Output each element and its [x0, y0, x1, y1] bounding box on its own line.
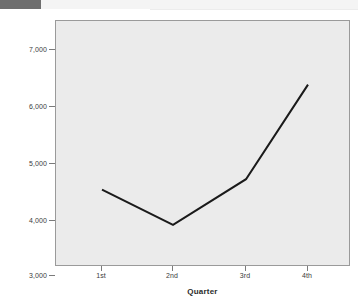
series-line-sales-in-units	[56, 21, 351, 267]
data-polyline	[102, 85, 308, 225]
x-axis-title: Quarter	[55, 287, 350, 296]
y-tick-label: 3,000	[29, 272, 47, 279]
x-tick-label: 4th	[302, 272, 312, 279]
line-chart: Sales in Units 7,000 6,000 5,000 4,000 3…	[0, 11, 358, 303]
top-bar-divider	[150, 9, 358, 10]
y-tick-label: 6,000	[29, 103, 47, 110]
x-tick-mark	[101, 266, 102, 271]
plot-area	[55, 20, 350, 266]
top-bar-light-segment	[41, 0, 358, 9]
x-tick-label: 3rd	[240, 272, 250, 279]
y-tick-label: 5,000	[29, 160, 47, 167]
y-tick-label: 7,000	[29, 46, 47, 53]
x-tick-mark	[307, 266, 308, 271]
y-tick-label: 4,000	[29, 217, 47, 224]
y-axis: 7,000 6,000 5,000 4,000 3,000	[0, 20, 55, 266]
top-bar	[0, 0, 358, 11]
x-tick-mark	[172, 266, 173, 271]
x-tick-mark	[245, 266, 246, 271]
x-tick-label: 1st	[96, 272, 106, 279]
x-tick-label: 2nd	[166, 272, 178, 279]
